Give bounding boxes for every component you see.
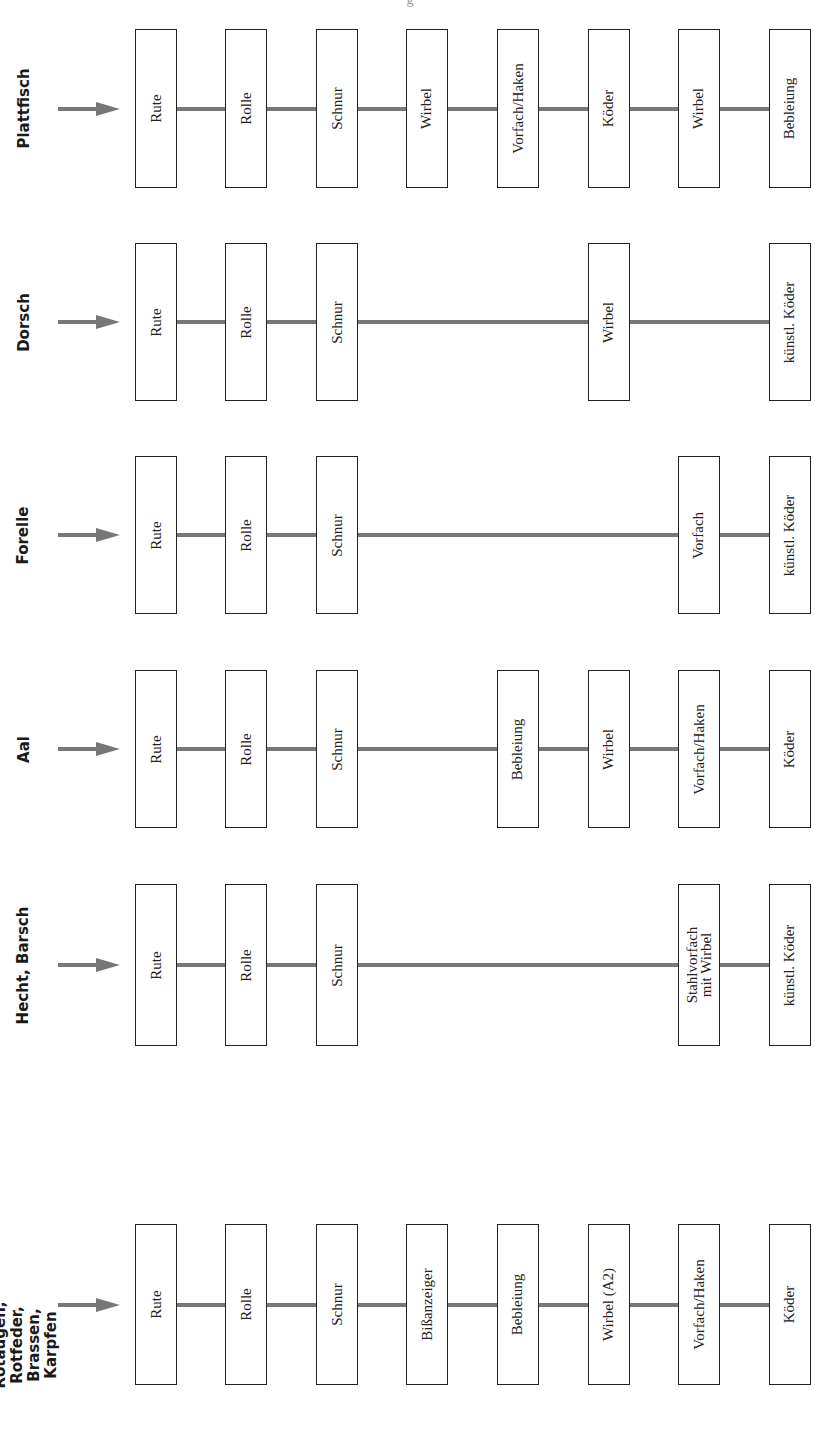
connector-line [358, 963, 678, 967]
connector-line [358, 320, 588, 324]
connector-line [630, 747, 678, 751]
component-label: Rolle [239, 1288, 254, 1321]
connector-line [720, 1303, 769, 1307]
connector-line [177, 320, 225, 324]
component-box: Rolle [225, 456, 267, 614]
component-box: künstl. Köder [769, 884, 811, 1046]
component-box: Schnur [316, 884, 358, 1046]
component-box: Rute [135, 670, 177, 828]
row-label-text: Hecht, Barsch [16, 906, 33, 1024]
row-label: Plattfisch [4, 29, 44, 188]
connector-line [358, 107, 406, 111]
row-label: Hecht, Barsch [4, 884, 44, 1046]
arrow-right-icon [58, 1298, 120, 1312]
connector-line [267, 963, 316, 967]
row-label: Aal [4, 670, 44, 828]
connector-line [358, 747, 497, 751]
component-label: Rolle [239, 733, 254, 766]
connector-line [630, 1303, 678, 1307]
component-box: Schnur [316, 243, 358, 401]
component-box: Vorfach/Haken [678, 1224, 720, 1385]
component-label: Rute [149, 735, 164, 763]
tackle-row: PlattfischRuteRolleSchnurWirbelVorfach/H… [0, 29, 815, 188]
component-box: Rolle [225, 29, 267, 188]
row-label-text: Plattfisch [16, 68, 33, 148]
component-label: Rute [149, 951, 164, 979]
component-label: Köder [602, 90, 617, 128]
connector-line [358, 533, 678, 537]
component-label: Stahlvorfach mit Wirbel [685, 927, 713, 1004]
component-box: Wirbel [588, 670, 630, 828]
component-box: Wirbel (A2) [588, 1224, 630, 1385]
connector-line [267, 747, 316, 751]
connector-line [539, 1303, 588, 1307]
arrow-right-icon [58, 315, 120, 329]
connector-line [448, 1303, 497, 1307]
component-box: Vorfach/Haken [497, 29, 539, 188]
connector-line [267, 107, 316, 111]
component-label: Schnur [330, 301, 345, 344]
connector-line [720, 107, 769, 111]
connector-line [267, 1303, 316, 1307]
component-label: Vorfach/Haken [692, 704, 707, 795]
component-label: Vorfach/Haken [692, 1259, 707, 1350]
component-label: künstl. Köder [783, 281, 798, 363]
component-label: Wirbel (A2) [602, 1268, 617, 1341]
component-label: Wirbel [602, 301, 617, 342]
component-box: Köder [769, 670, 811, 828]
arrow-right-icon [58, 742, 120, 756]
component-box: Vorfach/Haken [678, 670, 720, 828]
component-label: Schnur [330, 1283, 345, 1326]
component-label: Vorfach [692, 511, 707, 558]
arrow-right-icon [58, 528, 120, 542]
component-box: Köder [588, 29, 630, 188]
component-label: Rolle [239, 519, 254, 552]
connector-line [267, 320, 316, 324]
component-box: Rute [135, 1224, 177, 1385]
component-label: künstl. Köder [783, 924, 798, 1006]
component-label: Wirbel [420, 88, 435, 129]
component-label: Vorfach/Haken [511, 63, 526, 154]
tackle-row: Hecht, BarschRuteRolleSchnurStahlvorfach… [0, 884, 815, 1046]
component-box: Bebleiung [497, 670, 539, 828]
component-label: künstl. Köder [783, 494, 798, 576]
tackle-row: DorschRuteRolleSchnurWirbelkünstl. Köder [0, 243, 815, 401]
component-box: Wirbel [406, 29, 448, 188]
component-box: Köder [769, 1224, 811, 1385]
component-box: Bebleiung [497, 1224, 539, 1385]
component-box: Rute [135, 29, 177, 188]
component-box: Rolle [225, 670, 267, 828]
component-box: Bißanzeiger [406, 1224, 448, 1385]
component-label: Rolle [239, 306, 254, 339]
component-box: Rolle [225, 884, 267, 1046]
connector-line [630, 107, 678, 111]
row-label-text: Aal [16, 736, 33, 763]
component-label: Schnur [330, 514, 345, 557]
component-box: Schnur [316, 670, 358, 828]
component-label: Schnur [330, 728, 345, 771]
row-label-text: Forelle [16, 506, 33, 564]
component-label: Bebleiung [511, 718, 526, 780]
connector-line [177, 963, 225, 967]
component-label: Wirbel [692, 88, 707, 129]
arrow-right-icon [58, 958, 120, 972]
component-label: Wirbel [602, 728, 617, 769]
row-label-text: Rotaugen, Rotfeder, Brassen, Karpfen [0, 1301, 60, 1388]
component-label: Köder [783, 1286, 798, 1324]
row-label: Forelle [4, 456, 44, 614]
component-box: Rolle [225, 243, 267, 401]
component-label: Bebleiung [783, 78, 798, 140]
component-box: Rute [135, 243, 177, 401]
row-label-text: Dorsch [16, 293, 33, 352]
connector-line [720, 747, 769, 751]
tackle-row: AalRuteRolleSchnurBebleiungWirbelVorfach… [0, 670, 815, 828]
component-box: Schnur [316, 456, 358, 614]
row-label: Rotaugen, Rotfeder, Brassen, Karpfen [4, 1164, 48, 1431]
component-box: Wirbel [678, 29, 720, 188]
component-label: Bebleiung [511, 1274, 526, 1336]
component-label: Köder [783, 730, 798, 768]
component-box: Schnur [316, 29, 358, 188]
tackle-row: ForelleRuteRolleSchnurVorfachkünstl. Köd… [0, 456, 815, 614]
tackle-row: Rotaugen, Rotfeder, Brassen, KarpfenRute… [0, 1224, 815, 1385]
component-label: Rute [149, 521, 164, 549]
